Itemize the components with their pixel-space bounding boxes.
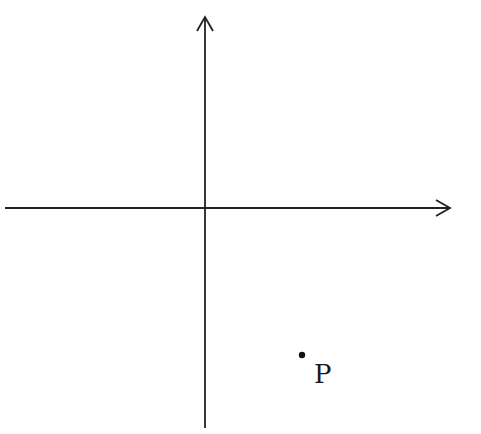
point-p-dot [299, 352, 305, 358]
coordinate-plane: P [0, 0, 481, 434]
point-p-label: P [314, 359, 332, 389]
